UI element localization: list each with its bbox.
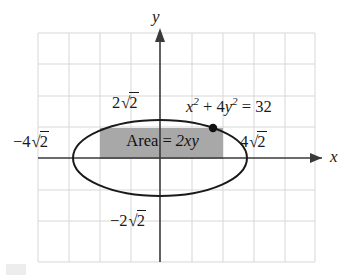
y-axis-arrow (155, 28, 165, 42)
area-label: Area = 2xy (104, 133, 221, 150)
y-intercept-label-positive: 2√2 (112, 95, 139, 112)
curve-equation-label: x2 + 4y2 = 32 (186, 96, 272, 115)
y-intercept-label-negative: −2√2 (110, 213, 146, 230)
y-axis-label: y (152, 8, 160, 25)
scan-artifact (6, 264, 26, 275)
figure-ellipse-area: Area = 2xy 2√2 −2√2 −4√2 4√2 x2 + 4y2 = … (0, 0, 348, 280)
x-intercept-label-negative: −4√2 (13, 134, 49, 151)
x-intercept-label-positive: 4√2 (240, 134, 267, 151)
point-on-ellipse-marker (209, 124, 217, 132)
x-axis-arrow (310, 153, 322, 163)
x-axis-label: x (330, 148, 338, 165)
